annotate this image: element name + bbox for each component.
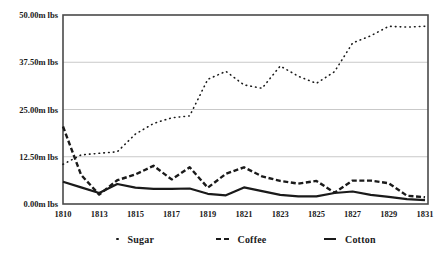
dot-marker-icon [116, 238, 119, 241]
line-chart-canvas: 0.00m lbs12.50m lbs25.00m lbs37.50m lbs5… [0, 0, 444, 257]
legend-label: Coffee [238, 234, 267, 245]
x-axis-tick-label: 1827 [344, 209, 362, 219]
x-axis-tick-label: 1810 [55, 209, 72, 219]
legend-item-cotton: Cotton [324, 231, 376, 247]
chart-legend: SugarCoffeeCotton [0, 231, 444, 249]
y-axis-tick-label: 0.00m lbs [24, 199, 59, 209]
x-axis-tick-label: 1819 [199, 209, 216, 219]
x-axis-tick-label: 1815 [127, 209, 144, 219]
x-axis-tick-label: 1813 [91, 209, 108, 219]
chart-figure: 0.00m lbs12.50m lbs25.00m lbs37.50m lbs5… [0, 0, 444, 257]
y-axis-tick-label: 12.50m lbs [19, 152, 58, 162]
x-axis-tick-label: 1829 [380, 209, 397, 219]
legend-item-sugar: Sugar [116, 231, 154, 247]
dash-marker-icon [216, 238, 229, 241]
x-axis-tick-label: 1817 [163, 209, 181, 219]
x-axis-tick-label: 1823 [272, 209, 289, 219]
x-axis-tick-label: 1825 [308, 209, 325, 219]
y-axis-tick-label: 25.00m lbs [19, 105, 58, 115]
x-axis-tick-label: 1821 [236, 209, 253, 219]
solid-marker-icon [324, 238, 336, 241]
x-axis-tick-label: 1831 [417, 209, 434, 219]
y-axis-tick-label: 50.00m lbs [19, 10, 58, 20]
legend-label: Cotton [345, 234, 376, 245]
series-line-sugar [63, 26, 425, 164]
y-axis-tick-label: 37.50m lbs [19, 57, 58, 67]
legend-item-coffee: Coffee [216, 231, 266, 247]
legend-label: Sugar [128, 234, 155, 245]
series-line-cotton [63, 182, 425, 201]
